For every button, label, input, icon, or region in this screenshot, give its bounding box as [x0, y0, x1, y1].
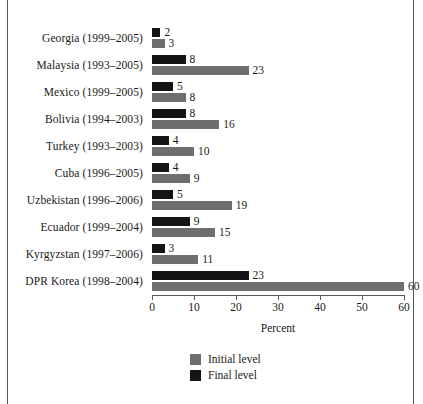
bar-value-label: 16	[223, 119, 235, 131]
legend-swatch-initial-icon	[190, 354, 201, 365]
bar-initial: 60	[152, 282, 404, 291]
x-axis-tick	[278, 295, 279, 300]
bar-final: 3	[152, 244, 165, 253]
bar-final: 5	[152, 82, 173, 91]
bar-value-label: 10	[198, 146, 210, 158]
category-label: Malaysia (1993–2005)	[37, 52, 143, 79]
figure-page: Georgia (1999–2005)23Malaysia (1993–2005…	[0, 0, 423, 404]
bar-final: 2	[152, 28, 160, 37]
bar-final: 8	[152, 109, 186, 118]
bar-initial: 10	[152, 147, 194, 156]
x-axis-tick-label: 10	[188, 301, 200, 313]
bar-initial: 16	[152, 120, 219, 129]
bar-initial: 19	[152, 201, 232, 210]
x-axis-tick-label: 30	[272, 301, 284, 313]
bar-final: 5	[152, 190, 173, 199]
x-axis-tick-label: 60	[398, 301, 410, 313]
chart-row: Bolivia (1994–2003)816	[152, 106, 404, 133]
chart-row: Uzbekistan (1996–2006)519	[152, 187, 404, 214]
legend-item-initial: Initial level	[190, 351, 261, 367]
bar-value-label: 9	[194, 173, 200, 185]
bar-initial: 11	[152, 255, 198, 264]
x-axis-tick-label: 0	[149, 301, 155, 313]
bar-value-label: 4	[173, 135, 179, 147]
bar-initial: 23	[152, 66, 249, 75]
category-label: Ecuador (1999–2004)	[41, 214, 144, 241]
x-axis-tick	[320, 295, 321, 300]
category-label: Bolivia (1994–2003)	[45, 106, 143, 133]
chart-row: Cuba (1996–2005)49	[152, 160, 404, 187]
chart-row: Malaysia (1993–2005)823	[152, 52, 404, 79]
bar-final: 4	[152, 136, 169, 145]
bar-final: 9	[152, 217, 190, 226]
bar-value-label: 3	[169, 38, 175, 50]
bar-value-label: 8	[190, 108, 196, 120]
bar-value-label: 9	[194, 216, 200, 228]
category-label: Cuba (1996–2005)	[55, 160, 143, 187]
category-label: Kyrgyzstan (1997–2006)	[26, 241, 143, 268]
bar-initial: 9	[152, 174, 190, 183]
category-label: DPR Korea (1998–2004)	[25, 268, 143, 295]
bar-value-label: 23	[253, 270, 265, 282]
bar-value-label: 4	[173, 162, 179, 174]
x-axis-tick	[404, 295, 405, 300]
x-axis-tick	[362, 295, 363, 300]
bar-value-label: 23	[253, 65, 265, 77]
bar-value-label: 8	[190, 92, 196, 104]
bar-chart: Georgia (1999–2005)23Malaysia (1993–2005…	[0, 0, 423, 404]
x-axis-tick	[152, 295, 153, 300]
x-axis-tick-label: 20	[230, 301, 242, 313]
chart-row: Kyrgyzstan (1997–2006)311	[152, 241, 404, 268]
chart-row: DPR Korea (1998–2004)2360	[152, 268, 404, 295]
bar-value-label: 3	[169, 243, 175, 255]
bar-value-label: 8	[190, 54, 196, 66]
plot-area: Georgia (1999–2005)23Malaysia (1993–2005…	[152, 25, 404, 295]
category-label: Uzbekistan (1996–2006)	[27, 187, 143, 214]
bar-final: 23	[152, 271, 249, 280]
x-axis-title: Percent	[152, 322, 404, 334]
chart-row: Turkey (1993–2003)410	[152, 133, 404, 160]
category-label: Mexico (1999–2005)	[44, 79, 143, 106]
x-axis-tick	[194, 295, 195, 300]
x-axis-tick	[236, 295, 237, 300]
bar-initial: 8	[152, 93, 186, 102]
bar-value-label: 19	[236, 200, 248, 212]
bar-initial: 15	[152, 228, 215, 237]
chart-row: Georgia (1999–2005)23	[152, 25, 404, 52]
legend-swatch-final-icon	[190, 370, 201, 381]
category-label: Georgia (1999–2005)	[42, 25, 143, 52]
bar-final: 8	[152, 55, 186, 64]
bar-initial: 3	[152, 39, 165, 48]
chart-legend: Initial level Final level	[190, 351, 261, 383]
x-axis-tick-label: 40	[314, 301, 326, 313]
bar-value-label: 11	[202, 254, 213, 266]
category-label: Turkey (1993–2003)	[46, 133, 143, 160]
legend-label-final: Final level	[208, 369, 257, 381]
bar-final: 4	[152, 163, 169, 172]
legend-item-final: Final level	[190, 367, 261, 383]
bar-value-label: 15	[219, 227, 231, 239]
bar-value-label: 5	[177, 81, 183, 93]
legend-label-initial: Initial level	[208, 353, 261, 365]
chart-row: Ecuador (1999–2004)915	[152, 214, 404, 241]
chart-row: Mexico (1999–2005)58	[152, 79, 404, 106]
bar-value-label: 5	[177, 189, 183, 201]
bar-value-label: 60	[408, 281, 420, 293]
x-axis-tick-label: 50	[356, 301, 368, 313]
